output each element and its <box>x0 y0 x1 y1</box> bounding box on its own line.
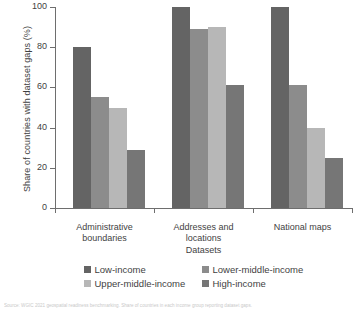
bar <box>172 7 190 208</box>
bar <box>208 27 226 208</box>
bar-group <box>172 7 244 208</box>
x-category-label-line: locations <box>154 233 253 244</box>
plot-area: 020406080100 AdministrativeboundariesAdd… <box>55 7 352 209</box>
x-category-label: Administrativeboundaries <box>55 222 154 243</box>
legend-item[interactable]: Lower-middle-income <box>202 264 296 275</box>
x-axis-title: Datasets <box>55 245 352 255</box>
x-tick-mark <box>154 208 155 213</box>
y-tick-mark <box>50 7 55 8</box>
y-tick-label: 60 <box>19 82 47 91</box>
y-tick-mark <box>50 47 55 48</box>
y-tick-label: 40 <box>19 123 47 132</box>
bar <box>226 85 244 208</box>
x-tick-mark <box>55 208 56 213</box>
source-note: Source: WGIC 2021 geospatial readiness b… <box>4 303 360 308</box>
legend-swatch-icon <box>202 280 209 287</box>
legend-item[interactable]: Upper-middle-income <box>84 278 202 289</box>
bar <box>271 7 289 208</box>
legend-label: Low-income <box>95 264 146 275</box>
y-tick-mark <box>50 87 55 88</box>
legend-swatch-icon <box>84 266 91 273</box>
bar <box>73 47 91 208</box>
y-tick-label: 20 <box>19 163 47 172</box>
x-axis-line <box>55 208 352 209</box>
bar-group <box>271 7 343 208</box>
legend-label: High-income <box>213 278 266 289</box>
legend-item[interactable]: High-income <box>202 278 296 289</box>
legend-label: Lower-middle-income <box>213 264 304 275</box>
y-tick-mark <box>50 128 55 129</box>
x-category-label: National maps <box>253 222 352 233</box>
legend-swatch-icon <box>84 280 91 287</box>
bar <box>127 150 145 208</box>
x-tick-mark <box>352 208 353 213</box>
bar <box>109 108 127 209</box>
bar-group <box>73 7 145 208</box>
bar <box>289 85 307 208</box>
x-category-label-line: boundaries <box>55 233 154 244</box>
bar <box>307 128 325 208</box>
y-axis-line <box>55 7 56 209</box>
x-tick-mark <box>253 208 254 213</box>
x-category-label-line: National maps <box>253 222 352 233</box>
bar-chart-figure: Share of countries with dataset gaps (%)… <box>0 0 362 310</box>
x-category-label-line: Addresses and <box>154 222 253 233</box>
bar <box>91 97 109 208</box>
legend-item[interactable]: Low-income <box>84 264 202 275</box>
y-tick-mark <box>50 168 55 169</box>
y-tick-label: 80 <box>19 42 47 51</box>
x-category-label-line: Administrative <box>55 222 154 233</box>
y-tick-label: 100 <box>19 2 47 11</box>
bar <box>190 29 208 208</box>
chart-legend: Low-incomeLower-middle-incomeUpper-middl… <box>84 264 296 289</box>
y-axis-title: Share of countries with dataset gaps (%) <box>22 9 32 209</box>
legend-swatch-icon <box>202 266 209 273</box>
legend-label: Upper-middle-income <box>95 278 186 289</box>
y-tick-label: 0 <box>19 203 47 212</box>
x-category-label: Addresses andlocations <box>154 222 253 243</box>
bar <box>325 158 343 208</box>
